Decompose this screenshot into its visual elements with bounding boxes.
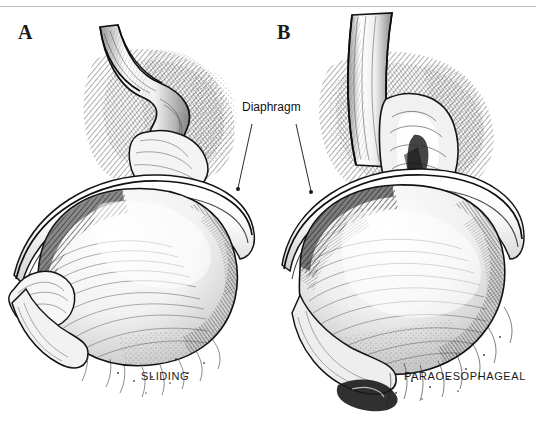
figure-container: A B Diaphragm SLIDING PARAOESOPHAGEAL: [0, 0, 536, 428]
leader-dot-left: [236, 187, 240, 191]
caption-sliding: SLIDING: [141, 371, 189, 382]
leader-dot-right: [309, 190, 313, 194]
hiatal-hernia-illustration: [0, 7, 536, 428]
caption-paraoesophageal: PARAOESOPHAGEAL: [404, 371, 526, 382]
panel-letter-a: A: [18, 22, 33, 42]
panel-letter-b: B: [277, 22, 291, 42]
diaphragm-callout-label: Diaphragm: [242, 101, 301, 113]
